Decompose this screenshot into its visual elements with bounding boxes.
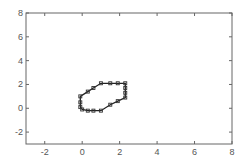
x-tick-label: 0 bbox=[80, 147, 85, 157]
x-tick-label: -2 bbox=[41, 147, 49, 157]
x-tick-label: 2 bbox=[117, 147, 122, 157]
y-tick-label: 6 bbox=[18, 32, 23, 42]
y-tick-label: 8 bbox=[18, 8, 23, 18]
plot-border bbox=[26, 13, 232, 144]
chart: -202468-202468 bbox=[0, 0, 247, 164]
y-tick-label: 4 bbox=[18, 56, 23, 66]
x-tick-label: 6 bbox=[192, 147, 197, 157]
x-tick-label: 4 bbox=[155, 147, 160, 157]
tick-labels: -202468-202468 bbox=[15, 8, 235, 157]
y-tick-label: 2 bbox=[18, 79, 23, 89]
y-tick-label: -2 bbox=[15, 127, 23, 137]
plot-frame bbox=[26, 13, 232, 144]
boundary-polygon bbox=[80, 83, 125, 110]
data-series bbox=[79, 82, 127, 112]
y-tick-label: 0 bbox=[18, 103, 23, 113]
x-tick-label: 8 bbox=[229, 147, 234, 157]
